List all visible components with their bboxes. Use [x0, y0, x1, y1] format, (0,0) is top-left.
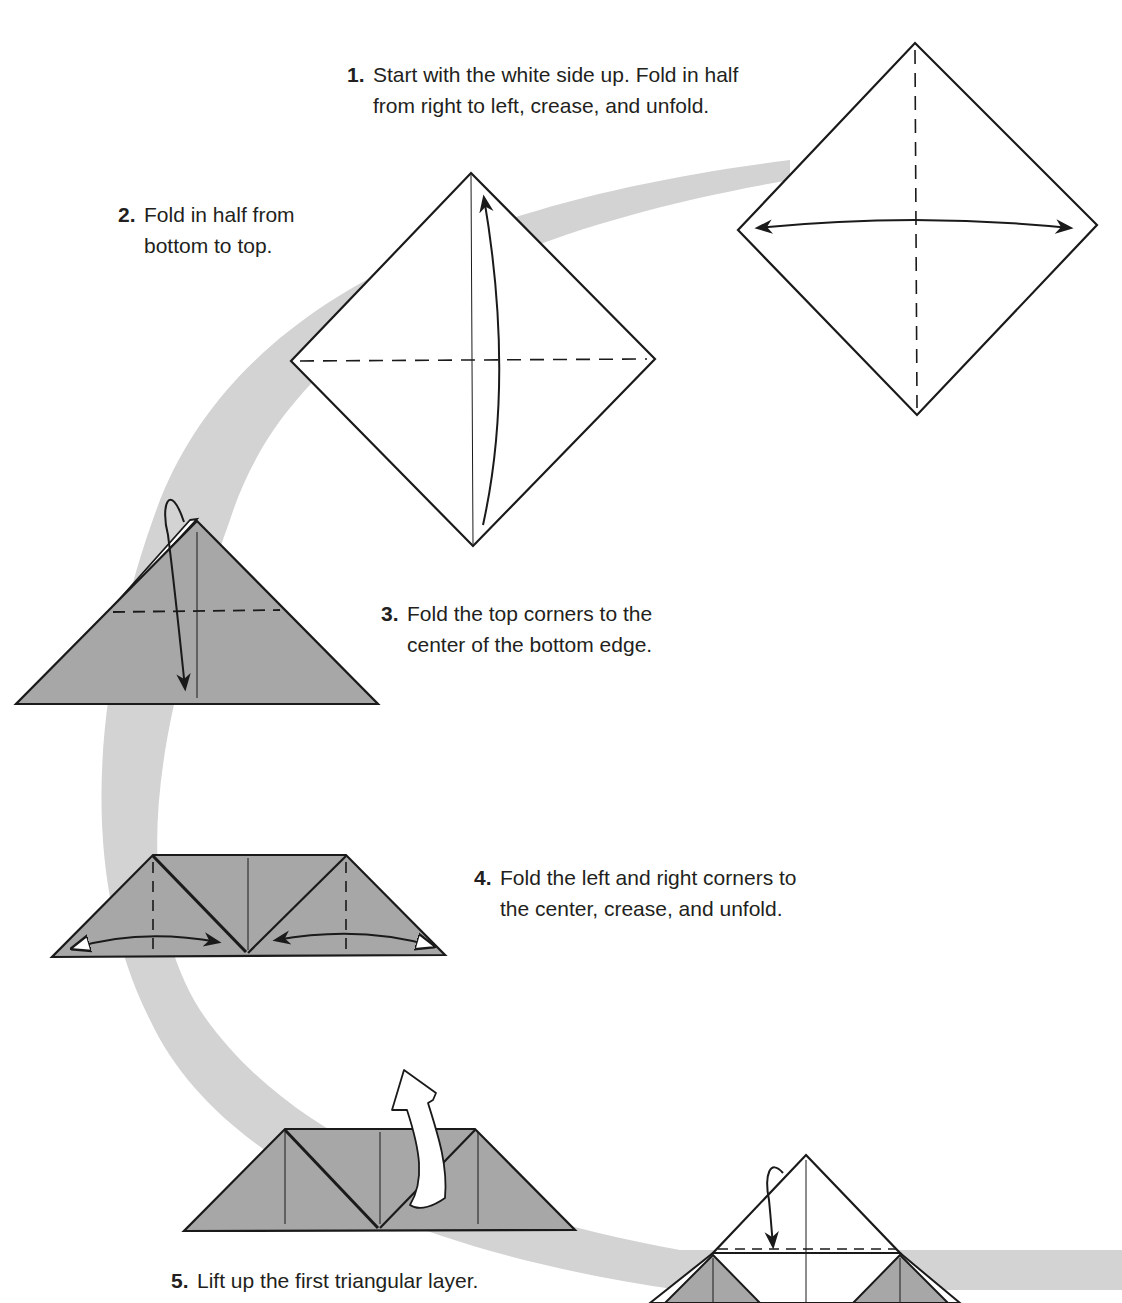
step-line-1: Lift up the first triangular layer. — [197, 1269, 478, 1292]
step-1-text: 1.Start with the white side up. Fold in … — [347, 59, 738, 121]
step-number: 3. — [381, 598, 407, 629]
step-2-diagram — [291, 173, 655, 546]
instruction-page: 1.Start with the white side up. Fold in … — [0, 0, 1122, 1303]
step-line-1: Start with the white side up. Fold in ha… — [373, 63, 738, 86]
step-number: 1. — [347, 59, 373, 90]
step-number: 4. — [474, 862, 500, 893]
step-3-diagram — [16, 500, 378, 704]
step-6-partial-diagram — [650, 1155, 960, 1303]
step-number: 2. — [118, 199, 144, 230]
step-line-2: center of the bottom edge. — [381, 629, 652, 660]
step-line-2: the center, crease, and unfold. — [474, 893, 797, 924]
step-1-diagram — [738, 43, 1097, 415]
step-4-text: 4.Fold the left and right corners to the… — [474, 862, 797, 924]
step-5-text: 5.Lift up the first triangular layer. — [171, 1265, 478, 1296]
step-line-1: Fold the top corners to the — [407, 602, 652, 625]
step-line-1: Fold in half from — [144, 203, 295, 226]
step-line-2: from right to left, crease, and unfold. — [347, 90, 738, 121]
step-line-2: bottom to top. — [118, 230, 295, 261]
step-3-text: 3.Fold the top corners to the center of … — [381, 598, 652, 660]
step-number: 5. — [171, 1265, 197, 1296]
step-2-text: 2.Fold in half from bottom to top. — [118, 199, 295, 261]
step-line-1: Fold the left and right corners to — [500, 866, 797, 889]
